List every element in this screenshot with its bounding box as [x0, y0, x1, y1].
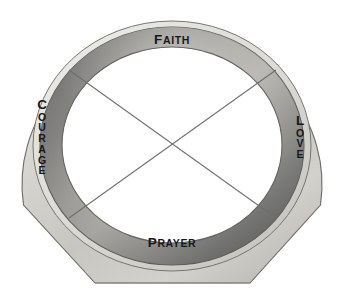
svg-text:FAITH: FAITH [154, 32, 190, 47]
label-love-letter-3: E [292, 149, 308, 160]
label-prayer-rest: RAYER [157, 237, 196, 249]
label-faith-rest: AITH [163, 34, 190, 46]
label-prayer: PRAYER [148, 235, 196, 250]
label-courage-letter-0: C [34, 98, 50, 112]
label-faith: FAITH [154, 32, 190, 47]
label-faith-initial: F [154, 32, 163, 47]
label-courage: C O U R A G E [34, 98, 50, 176]
label-courage-letter-6: E [34, 165, 50, 176]
label-love: L O V E [292, 114, 308, 160]
wheel-diagram: FAITH PRAYER C O U R A G E L O V E [0, 0, 344, 300]
svg-text:PRAYER: PRAYER [148, 235, 196, 250]
label-love-letter-0: L [292, 114, 308, 128]
label-prayer-initial: P [148, 235, 158, 250]
label-courage-letter-4: A [34, 144, 50, 155]
